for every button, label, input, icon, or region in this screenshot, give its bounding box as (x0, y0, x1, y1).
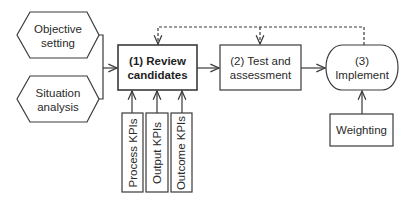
objective-connector (99, 35, 103, 99)
test-line-2: assessment (230, 68, 291, 82)
test-line-1: (2) Test and (230, 54, 291, 68)
test-assessment-label: (2) Test and assessment (220, 45, 301, 90)
review-line-1: (1) Review (129, 54, 186, 68)
outcome-kpis-label: Outcome KPIs (171, 113, 192, 192)
output-kpis-label: Output KPIs (146, 113, 168, 192)
situation-line-1: Situation (36, 86, 81, 100)
objective-setting-label: Objective setting (22, 13, 94, 58)
review-line-2: candidates (127, 68, 187, 82)
feedback-dashed-line (158, 27, 364, 45)
outcome-kpis-text: Outcome KPIs (176, 115, 188, 189)
implement-line-1: (3) (355, 54, 369, 68)
situation-line-2: analysis (37, 100, 79, 114)
review-candidates-label: (1) Review candidates (118, 45, 197, 90)
situation-analysis-label: Situation analysis (22, 77, 94, 122)
objective-line-1: Objective (34, 22, 82, 36)
objective-line-2: setting (41, 36, 75, 50)
implement-line-2: Implement (335, 68, 389, 82)
process-kpis-label: Process KPIs (122, 113, 143, 192)
weighting-text: Weighting (336, 123, 387, 137)
implement-label: (3) Implement (326, 45, 398, 90)
weighting-label: Weighting (330, 114, 393, 146)
output-kpis-text: Output KPIs (151, 121, 163, 183)
process-kpis-text: Process KPIs (127, 118, 139, 187)
